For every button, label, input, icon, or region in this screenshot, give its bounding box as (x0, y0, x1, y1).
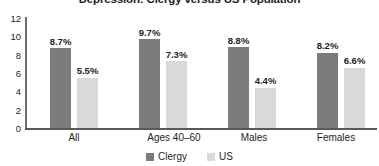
bar-group-males: 8.8% 4.4% (228, 18, 276, 128)
y-tick-label: 4 (0, 87, 21, 97)
bar-clergy-ages-40-60[interactable]: 9.7% (139, 39, 160, 128)
legend-item-clergy[interactable]: Clergy (146, 152, 187, 162)
y-tick-label: 0 (0, 124, 21, 134)
bar-clergy-all[interactable]: 8.7% (50, 48, 71, 128)
y-tick-label: 2 (0, 106, 21, 116)
bar-clergy-females[interactable]: 8.2% (317, 53, 338, 128)
bar-value-label: 9.7% (139, 28, 161, 38)
bar-group-all: 8.7% 5.5% (50, 18, 98, 128)
x-category-label-females: Females (293, 133, 379, 143)
x-axis-line (25, 128, 377, 130)
bar-value-label: 8.2% (317, 41, 339, 51)
bar-group-females: 8.2% 6.6% (317, 18, 365, 128)
bar-chart: Depression: Clergy versus US Population … (0, 0, 379, 166)
x-category-label-males: Males (204, 133, 304, 143)
chart-legend: Clergy US (0, 152, 379, 162)
legend-swatch-us (207, 153, 215, 161)
bar-clergy-males[interactable]: 8.8% (228, 47, 249, 128)
bar-value-label: 6.6% (344, 56, 366, 66)
bar-value-label: 5.5% (77, 66, 99, 76)
bar-value-label: 7.3% (166, 50, 188, 60)
y-axis-tick-labels: 12 10 8 6 4 2 0 (0, 0, 22, 166)
legend-label-clergy: Clergy (158, 152, 187, 162)
y-tick-label: 6 (0, 69, 21, 79)
bar-value-label: 8.7% (50, 37, 72, 47)
bar-us-males[interactable]: 4.4% (255, 88, 276, 128)
legend-swatch-clergy (146, 153, 154, 161)
chart-title: Depression: Clergy versus US Population (0, 0, 379, 5)
bar-us-ages-40-60[interactable]: 7.3% (166, 61, 187, 128)
plot-area: 8.7% 5.5% 9.7% 7.3% 8.8% 4.4% 8.2% (26, 18, 375, 128)
bar-us-females[interactable]: 6.6% (344, 68, 365, 129)
y-tick-label: 10 (0, 32, 21, 42)
bar-value-label: 8.8% (228, 36, 250, 46)
bar-group-ages-40-60: 9.7% 7.3% (139, 18, 187, 128)
legend-item-us[interactable]: US (207, 152, 233, 162)
bar-value-label: 4.4% (255, 76, 277, 86)
bar-us-all[interactable]: 5.5% (77, 78, 98, 128)
legend-label-us: US (219, 152, 233, 162)
x-category-label-all: All (50, 133, 98, 143)
y-tick-label: 8 (0, 51, 21, 61)
y-tick-label: 12 (0, 14, 21, 24)
